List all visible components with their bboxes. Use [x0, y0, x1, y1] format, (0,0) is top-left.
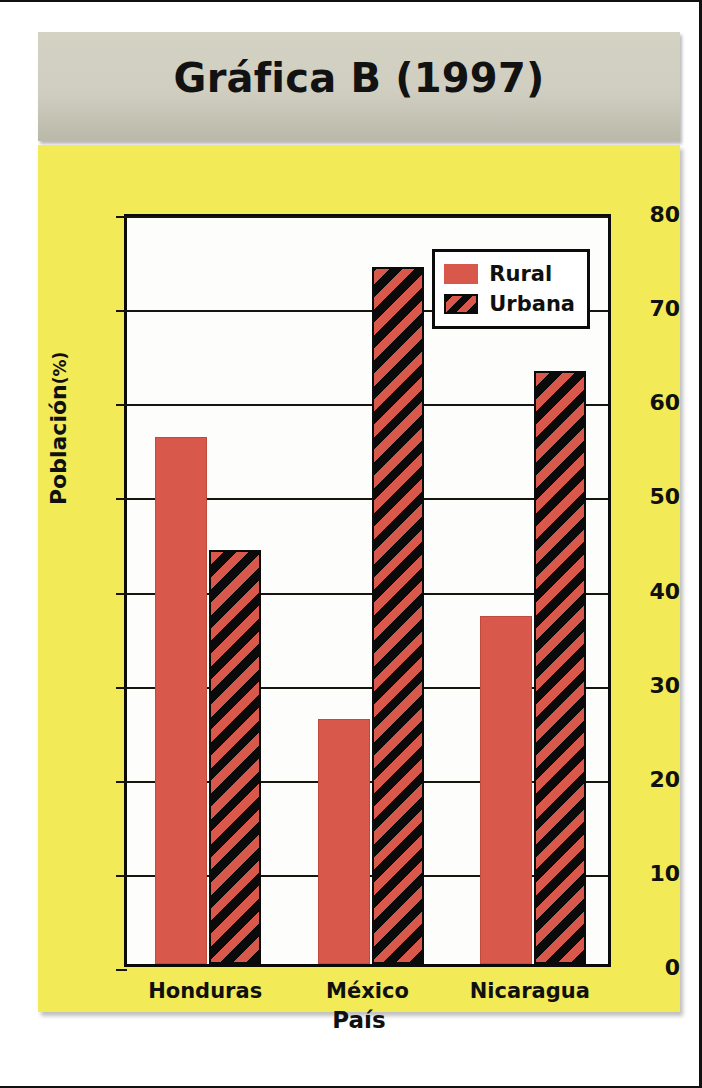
legend-item-urbana: Urbana — [444, 289, 575, 319]
legend-label-rural: Rural — [489, 264, 552, 285]
figure-page: Gráfica B (1997) Población(%) 0102030405… — [0, 0, 702, 1088]
chart-legend: Rural Urbana — [432, 249, 590, 329]
bar-honduras-rural — [155, 437, 207, 964]
y-axis-tick — [116, 404, 127, 406]
plot-area: Rural Urbana — [124, 214, 611, 967]
bar-nicaragua-urbana — [534, 371, 586, 964]
y-axis-tick-label: 70 — [611, 296, 680, 321]
legend-swatch-urbana-icon — [444, 294, 478, 314]
y-axis-tick — [116, 310, 127, 312]
y-axis-tick — [116, 781, 127, 783]
x-axis-title: País — [38, 1007, 680, 1033]
bar-mxico-rural — [318, 719, 370, 964]
y-axis-tick-label: 0 — [611, 955, 680, 980]
y-axis-tick — [116, 687, 127, 689]
bar-mxico-urbana — [372, 267, 424, 964]
y-axis-tick-label: 60 — [611, 390, 680, 415]
y-axis-tick — [116, 216, 127, 218]
y-axis-title: Población(%) — [46, 352, 71, 505]
y-axis-tick — [116, 875, 127, 877]
legend-item-rural: Rural — [444, 259, 575, 289]
y-axis-tick-label: 40 — [611, 578, 680, 603]
y-axis-tick — [116, 969, 127, 971]
chart-figure: Gráfica B (1997) Población(%) 0102030405… — [38, 32, 686, 1022]
y-axis-tick-label: 80 — [611, 202, 680, 227]
chart-title: Gráfica B (1997) — [38, 55, 680, 101]
legend-swatch-rural-icon — [444, 264, 478, 284]
y-axis-tick-label: 30 — [611, 672, 680, 697]
x-axis-tick-label: Nicaragua — [430, 979, 630, 1003]
gridline — [127, 216, 608, 218]
chart-panel: Población(%) 01020304050607080 Rural U — [38, 145, 680, 1012]
y-axis-tick — [116, 498, 127, 500]
y-axis-tick-label: 50 — [611, 484, 680, 509]
bar-nicaragua-rural — [480, 616, 532, 964]
bar-honduras-urbana — [209, 550, 261, 964]
y-axis-tick — [116, 593, 127, 595]
y-axis-tick-label: 10 — [611, 860, 680, 885]
plot-area-wrapper: Rural Urbana — [124, 214, 611, 967]
y-axis-tick-label: 20 — [611, 766, 680, 791]
title-band: Gráfica B (1997) — [38, 32, 680, 141]
legend-label-urbana: Urbana — [489, 294, 575, 315]
y-axis-title-text: Población — [46, 384, 71, 505]
y-axis-unit: (%) — [50, 352, 70, 385]
